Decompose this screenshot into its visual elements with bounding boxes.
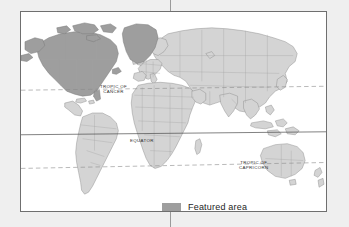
legend-swatch-featured-area [162,203,181,212]
page-gutter-line-top [170,0,171,11]
tropic-of-cancer-label: TROPIC OF CANCER [100,84,127,95]
map-legend: Featured area [162,202,247,212]
page-gutter-line-bottom [170,212,171,227]
tropic-of-capricorn-label: TROPIC OF CAPRICORN [239,160,269,171]
page-background: TROPIC OF CANCER EQUATOR TROPIC OF CAPRI… [0,0,349,227]
equator-label: EQUATOR [130,138,154,143]
legend-label-featured-area: Featured area [188,202,247,212]
world-map-graphic [21,12,326,211]
world-map-figure: TROPIC OF CANCER EQUATOR TROPIC OF CAPRI… [20,11,327,212]
